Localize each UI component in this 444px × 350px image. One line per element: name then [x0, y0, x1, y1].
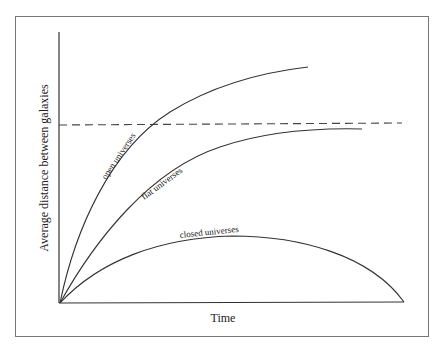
universe-expansion-diagram: open universes flat universes closed uni…: [0, 0, 444, 350]
y-axis-label: Average distance between galaxies: [37, 84, 51, 252]
open-universe-curve: [60, 67, 308, 303]
critical-distance-dashed-line: [59, 123, 402, 125]
closed-universe-curve: [60, 236, 404, 303]
flat-universe-label: flat universes: [139, 165, 184, 202]
flat-universe-curve: [60, 129, 362, 303]
x-axis: [59, 302, 404, 303]
open-universe-label: open universes: [99, 131, 138, 182]
x-axis-label: Time: [211, 311, 236, 325]
